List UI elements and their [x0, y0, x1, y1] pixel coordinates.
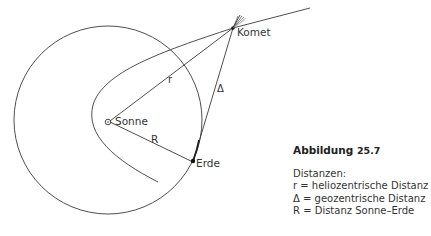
legend-item-delta: Δ = geozentrische Distanz	[293, 193, 428, 206]
comet-label: Komet	[237, 27, 271, 38]
comet-orbit	[92, 8, 310, 182]
earth-label: Erde	[196, 158, 220, 169]
legend-item-r: r = heliozentrische Distanz	[293, 180, 428, 193]
legend-item-R: R = Distanz Sonne–Erde	[293, 205, 428, 218]
delta-label: Δ	[217, 84, 224, 94]
R-label: R	[151, 134, 158, 145]
figure-caption: Abbildung 25.7 Distanzen: r = heliozentr…	[293, 144, 428, 218]
legend-heading: Distanzen:	[293, 168, 428, 181]
earth-point	[191, 159, 195, 163]
r-label: r	[168, 75, 172, 85]
earth-orbit	[14, 26, 202, 214]
sun-label: Sonne	[115, 116, 148, 127]
figure-title: Abbildung 25.7	[293, 144, 428, 158]
sun-icon	[105, 119, 111, 125]
figure-number: 25.7	[357, 145, 380, 156]
